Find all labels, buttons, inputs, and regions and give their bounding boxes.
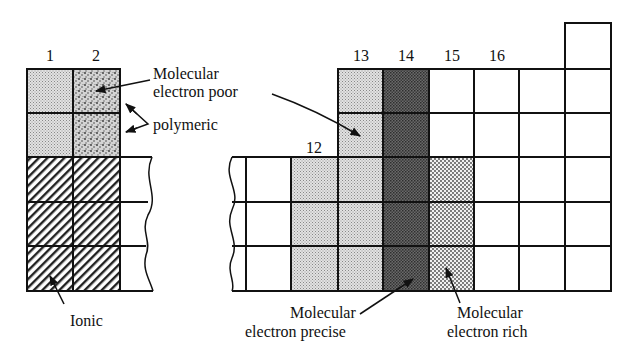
arrow-icon (126, 128, 137, 132)
group-label-12: 12 (306, 139, 322, 156)
electron-precise-label-line1: Molecular (290, 304, 356, 321)
electron-poor-label-line1: Molecular (153, 65, 219, 82)
polymeric-label: polymeric (153, 116, 218, 134)
electron-rich-label-line2: electron rich (447, 323, 527, 340)
bracket-arrows (126, 104, 148, 132)
diagram-canvas: 1 2 12 13 14 15 16 Molecular electron po… (0, 0, 630, 364)
s-block (27, 69, 153, 291)
group-label-2: 2 (92, 47, 100, 64)
periodic-bonding-diagram: 1 2 12 13 14 15 16 Molecular electron po… (0, 0, 630, 364)
arrow-icon (126, 104, 137, 114)
p-block (229, 23, 611, 291)
ionic-label: Ionic (70, 312, 103, 329)
electron-rich-label-line1: Molecular (457, 304, 523, 321)
group-label-16: 16 (489, 47, 505, 64)
group-label-13: 13 (353, 47, 369, 64)
group-label-1: 1 (46, 47, 54, 64)
group-label-15: 15 (444, 47, 460, 64)
electron-poor-label-line2: electron poor (153, 83, 239, 101)
group-label-14: 14 (398, 47, 414, 64)
electron-precise-label-line2: electron precise (245, 323, 346, 341)
